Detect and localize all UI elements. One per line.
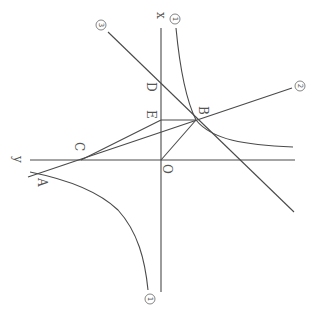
hyperbola-lower-branch (30, 172, 148, 290)
svg-text:1: 1 (146, 297, 154, 301)
x-axis-label: x (154, 12, 168, 19)
point-d-label: D (144, 82, 158, 92)
svg-text:1: 1 (171, 17, 179, 21)
svg-text:2: 2 (296, 84, 304, 88)
svg-text:3: 3 (97, 23, 105, 27)
math-diagram: y x 1 1 2 3 A B C D E O (0, 0, 311, 315)
line-3 (108, 32, 294, 212)
origin-label: O (160, 164, 174, 174)
hyperbola-lower-label: 1 (145, 294, 155, 304)
line-2-label: 2 (295, 81, 305, 91)
hyperbola-upper-label: 1 (170, 14, 180, 24)
point-a-label: A (35, 177, 49, 187)
segment-c-e (81, 120, 161, 160)
y-axis-label: y (11, 155, 25, 163)
point-c-label: C (72, 142, 86, 151)
hyperbola-upper-branch (176, 28, 293, 147)
point-e-label: E (144, 110, 158, 119)
line-3-label: 3 (96, 20, 106, 30)
line-2 (28, 88, 292, 177)
point-b-label: B (196, 106, 210, 115)
